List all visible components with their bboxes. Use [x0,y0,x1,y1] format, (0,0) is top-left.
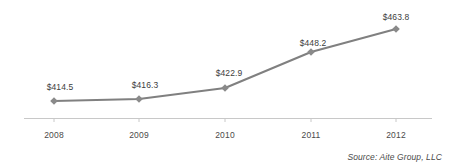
data-point-marker [392,25,400,33]
x-tick-label-2012: 2012 [386,130,406,140]
x-tick-label-2008: 2008 [44,130,64,140]
data-label-2009: $416.3 [132,80,159,90]
data-point-marker [307,48,315,56]
data-label-2008: $414.5 [47,82,74,92]
data-label-2011: $448.2 [300,38,327,48]
data-label-2010: $422.9 [216,68,243,78]
x-tick-label-2009: 2009 [129,130,149,140]
data-point-marker [135,95,143,103]
data-label-2012: $463.8 [383,12,410,22]
line-chart-figure: $414.5 $416.3 $422.9 $448.2 $463.8 2008 … [0,0,452,168]
x-tick-label-2010: 2010 [215,130,235,140]
x-axis-ticks [54,119,396,123]
source-attribution: Source: Aite Group, LLC [347,152,442,162]
data-point-marker [50,97,58,105]
data-point-marker [221,84,229,92]
data-point-markers [50,25,400,105]
x-tick-label-2011: 2011 [301,130,320,140]
